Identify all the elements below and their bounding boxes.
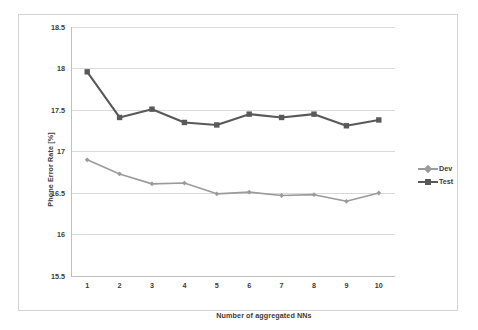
chart-legend: Dev Test	[418, 162, 476, 192]
x-tick-label: 6	[235, 281, 263, 290]
chart-figure: 18.51817.51716.51615.5 12345678910 Numbe…	[18, 14, 458, 311]
data-point-test-1[interactable]	[85, 69, 90, 74]
chart-plot-area	[19, 15, 459, 312]
legend-item-dev[interactable]: Dev	[418, 162, 452, 175]
data-point-dev-9[interactable]	[344, 199, 349, 204]
data-point-test-7[interactable]	[279, 115, 284, 120]
x-tick-label: 8	[300, 281, 328, 290]
y-tick-label: 16	[27, 230, 65, 239]
data-point-dev-3[interactable]	[150, 181, 155, 186]
data-point-dev-4[interactable]	[182, 181, 187, 186]
x-tick-label: 3	[138, 281, 166, 290]
square-marker-icon	[425, 179, 431, 185]
data-point-test-3[interactable]	[149, 106, 154, 111]
data-point-test-5[interactable]	[214, 122, 219, 127]
legend-label-test: Test	[439, 177, 453, 186]
series-line-test	[87, 72, 379, 126]
diamond-marker-icon	[424, 164, 432, 172]
data-point-test-6[interactable]	[247, 111, 252, 116]
x-axis-title: Number of aggregated NNs	[89, 311, 439, 320]
y-tick-label: 18.5	[27, 23, 65, 32]
gridlines-group	[71, 27, 395, 276]
x-tick-label: 1	[73, 281, 101, 290]
x-tick-label: 9	[332, 281, 360, 290]
data-point-test-9[interactable]	[344, 123, 349, 128]
y-tick-label: 15.5	[27, 272, 65, 281]
x-tick-label: 5	[203, 281, 231, 290]
x-tick-label: 7	[268, 281, 296, 290]
data-point-dev-6[interactable]	[247, 190, 252, 195]
legend-label-dev: Dev	[439, 164, 452, 173]
data-point-dev-2[interactable]	[117, 172, 122, 177]
x-tick-label: 10	[365, 281, 393, 290]
data-point-dev-10[interactable]	[376, 191, 381, 196]
y-axis-title: Phone Error Rate [%]	[46, 110, 55, 230]
data-point-dev-1[interactable]	[85, 157, 90, 162]
data-series-group	[85, 69, 382, 204]
legend-swatch-test	[418, 176, 438, 187]
legend-swatch-dev	[418, 163, 438, 174]
series-line-dev	[87, 160, 379, 202]
x-tick-label: 4	[170, 281, 198, 290]
x-tick-label: 2	[106, 281, 134, 290]
data-point-dev-5[interactable]	[214, 191, 219, 196]
data-point-test-4[interactable]	[182, 120, 187, 125]
y-tick-label: 18	[27, 64, 65, 73]
data-point-dev-7[interactable]	[279, 193, 284, 198]
data-point-test-8[interactable]	[311, 111, 316, 116]
data-point-test-10[interactable]	[376, 117, 381, 122]
data-point-test-2[interactable]	[117, 115, 122, 120]
legend-item-test[interactable]: Test	[418, 175, 453, 188]
